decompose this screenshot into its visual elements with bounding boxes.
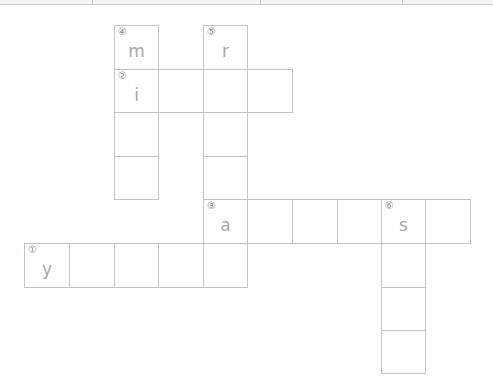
crossword-cell[interactable]	[203, 112, 248, 157]
crossword-cell[interactable]	[203, 69, 248, 113]
crossword-cell[interactable]	[381, 287, 426, 331]
crossword-cell[interactable]	[158, 243, 204, 288]
crossword-cell[interactable]: ②i	[114, 69, 159, 113]
clue-number: ③	[207, 201, 216, 211]
crossword-cell[interactable]	[114, 112, 159, 157]
crossword-cell[interactable]: ①y	[24, 243, 70, 288]
crossword-cell[interactable]: ④m	[114, 25, 159, 70]
cell-letter: r	[204, 40, 247, 62]
crossword-cell[interactable]	[247, 69, 293, 113]
cell-letter: s	[382, 214, 425, 236]
crossword-cell[interactable]	[114, 243, 159, 288]
clue-number: ⑤	[207, 27, 216, 37]
crossword-cell[interactable]	[337, 199, 382, 244]
clue-number: ②	[118, 71, 127, 81]
crossword-cell[interactable]: ③a	[203, 199, 248, 244]
crossword-cell[interactable]	[425, 199, 471, 244]
crossword-cell[interactable]	[381, 330, 426, 374]
crossword-grid: ④m⑤r②i③a⑥s①y	[0, 0, 493, 388]
crossword-cell[interactable]	[247, 199, 293, 244]
cell-letter: i	[115, 84, 158, 106]
crossword-cell[interactable]	[203, 243, 248, 288]
crossword-cell[interactable]	[69, 243, 115, 288]
clue-number: ⑥	[385, 201, 394, 211]
cell-letter: m	[115, 40, 158, 62]
clue-number: ①	[28, 245, 37, 255]
cell-letter: a	[204, 214, 247, 236]
crossword-cell[interactable]	[158, 69, 204, 113]
crossword-cell[interactable]	[203, 156, 248, 200]
crossword-cell[interactable]	[292, 199, 338, 244]
crossword-cell[interactable]	[381, 243, 426, 288]
crossword-cell[interactable]: ⑤r	[203, 25, 248, 70]
cell-letter: y	[25, 258, 69, 280]
crossword-cell[interactable]: ⑥s	[381, 199, 426, 244]
crossword-cell[interactable]	[114, 156, 159, 200]
clue-number: ④	[118, 27, 127, 37]
